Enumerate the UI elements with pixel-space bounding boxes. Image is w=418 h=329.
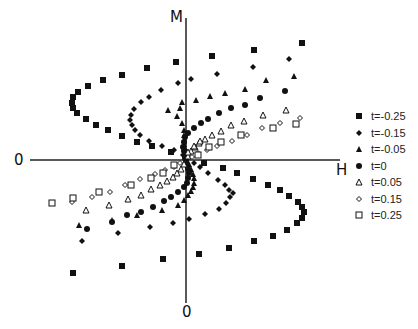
m-axis-label: M: [170, 8, 183, 26]
open-square-icon: [352, 209, 366, 221]
open-triangle-icon: [352, 176, 366, 188]
legend-item: t=-0.15: [352, 125, 406, 142]
data-points: [49, 40, 307, 276]
filled-triangle-icon: [352, 143, 366, 155]
legend-item: t=-0.05: [352, 141, 406, 158]
legend: t=-0.25 t=-0.15 t=-0.05 t=0 t=0.05 t=0.1…: [352, 108, 406, 224]
h-axis-label: H: [336, 161, 347, 179]
legend-item: t=0.05: [352, 174, 406, 191]
legend-item: t=0.15: [352, 191, 406, 208]
filled-circle-icon: [352, 160, 366, 172]
legend-item: t=0.25: [352, 207, 406, 224]
legend-item: t=-0.25: [352, 108, 406, 125]
m-origin-label: 0: [182, 303, 192, 321]
filled-diamond-icon: [352, 127, 366, 139]
open-diamond-icon: [352, 193, 366, 205]
filled-square-icon: [352, 110, 366, 122]
h-origin-label: 0: [14, 151, 24, 169]
legend-item: t=0: [352, 158, 406, 175]
